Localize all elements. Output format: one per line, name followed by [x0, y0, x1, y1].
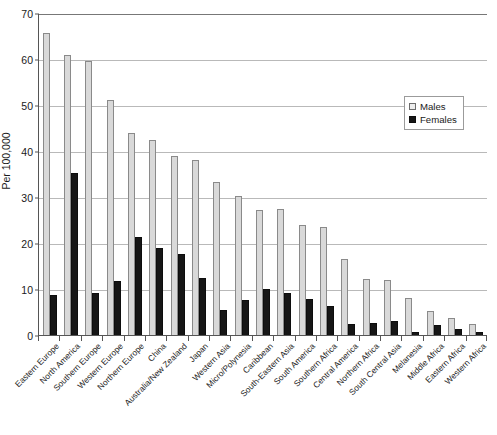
bar-males: [320, 227, 327, 335]
bar-group: [188, 14, 209, 335]
bar-females: [455, 329, 462, 335]
y-tick-label-60: 60: [21, 54, 39, 66]
bar-females: [114, 281, 121, 335]
y-axis-label: Per 100,000: [0, 132, 12, 189]
bar-males: [469, 324, 476, 335]
bar-females: [199, 278, 206, 335]
legend-item-males: Males: [409, 100, 457, 113]
bar-females: [92, 293, 99, 335]
bar-group: [124, 14, 145, 335]
bar-females: [348, 324, 355, 335]
y-tick-label-40: 40: [21, 146, 39, 158]
bar-females: [284, 293, 291, 335]
bar-females: [156, 248, 163, 335]
bar-group: [295, 14, 316, 335]
bar-females: [391, 321, 398, 335]
bar-females: [306, 299, 313, 335]
bar-males: [235, 196, 242, 335]
bar-females: [476, 332, 483, 335]
bar-males: [448, 318, 455, 335]
bar-males: [192, 160, 199, 335]
y-tick-label-20: 20: [21, 238, 39, 250]
bar-males: [299, 225, 306, 335]
bar-males: [107, 100, 114, 335]
bar-group: [60, 14, 81, 335]
bar-males: [85, 61, 92, 335]
bar-females: [263, 289, 270, 335]
y-tick-label-70: 70: [21, 8, 39, 20]
bar-group: [146, 14, 167, 335]
bar-series-container: [39, 14, 487, 335]
legend-item-females: Females: [409, 113, 457, 126]
bar-females: [135, 237, 142, 335]
bar-males: [43, 33, 50, 335]
bar-group: [274, 14, 295, 335]
bar-females: [50, 295, 57, 335]
bar-group: [167, 14, 188, 335]
x-axis-labels: Eastern EuropeNorth AmericaSouthern Euro…: [38, 341, 487, 435]
bar-males: [213, 182, 220, 335]
bar-females: [178, 254, 185, 335]
bar-group: [402, 14, 423, 335]
bar-females: [370, 323, 377, 335]
legend-label-females: Females: [420, 113, 457, 126]
bar-females: [412, 332, 419, 335]
bar-males: [128, 133, 135, 335]
y-axis-label-container: Per 100,000: [8, 0, 22, 322]
bar-group: [466, 14, 487, 335]
y-tick-label-50: 50: [21, 100, 39, 112]
bar-males: [171, 156, 178, 335]
chart-figure: Per 100,000 010203040506070 Eastern Euro…: [0, 0, 497, 435]
bar-group: [380, 14, 401, 335]
bar-group: [338, 14, 359, 335]
bar-males: [363, 279, 370, 335]
bar-group: [231, 14, 252, 335]
bar-group: [252, 14, 273, 335]
y-tick-label-10: 10: [21, 284, 39, 296]
chart-legend: Males Females: [404, 96, 464, 130]
bar-group: [103, 14, 124, 335]
bar-group: [316, 14, 337, 335]
bar-males: [149, 140, 156, 335]
bar-group: [359, 14, 380, 335]
bar-females: [327, 306, 334, 335]
bar-males: [341, 259, 348, 335]
bar-males: [405, 298, 412, 335]
female-swatch-icon: [409, 116, 416, 123]
bar-group: [210, 14, 231, 335]
bar-males: [384, 280, 391, 335]
bar-males: [256, 210, 263, 335]
bar-males: [64, 55, 71, 335]
y-tick-label-30: 30: [21, 192, 39, 204]
bar-females: [220, 310, 227, 335]
bar-males: [277, 209, 284, 335]
bar-females: [434, 325, 441, 335]
bar-females: [71, 173, 78, 335]
bar-group: [423, 14, 444, 335]
bar-group: [444, 14, 465, 335]
bar-group: [82, 14, 103, 335]
plot-area: 010203040506070: [38, 14, 487, 336]
bar-males: [427, 311, 434, 335]
male-swatch-icon: [409, 103, 416, 110]
legend-label-males: Males: [420, 100, 446, 113]
bar-females: [242, 300, 249, 335]
bar-group: [39, 14, 60, 335]
